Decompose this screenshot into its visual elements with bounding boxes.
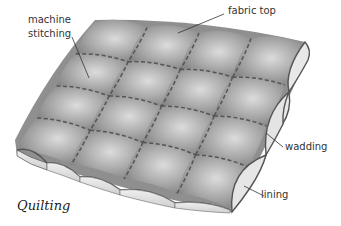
figure-caption: Quilting	[17, 198, 70, 213]
label-wadding: wadding	[285, 140, 327, 154]
label-machine-stitching: machine stitching	[28, 13, 71, 41]
label-lining: lining	[261, 188, 288, 202]
quilt-cells	[18, 20, 303, 208]
quilting-diagram: machine stitching fabric top wadding lin…	[0, 0, 341, 226]
label-fabric-top: fabric top	[228, 4, 276, 18]
